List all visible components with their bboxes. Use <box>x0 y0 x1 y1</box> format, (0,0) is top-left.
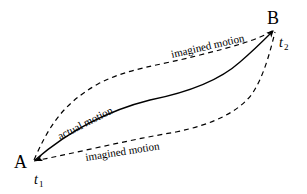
motion-diagram: A B t1 t2 actual motion imagined motion … <box>0 0 307 194</box>
point-b-label: B <box>267 8 279 28</box>
imagined-motion-upper-label: imagined motion <box>170 31 246 60</box>
imagined-motion-lower-label: imagined motion <box>84 139 160 163</box>
actual-motion-label: actual motion <box>55 104 115 142</box>
time-t2-label: t2 <box>279 35 288 52</box>
time-t1-label: t1 <box>34 172 43 189</box>
point-a-label: A <box>14 152 27 172</box>
